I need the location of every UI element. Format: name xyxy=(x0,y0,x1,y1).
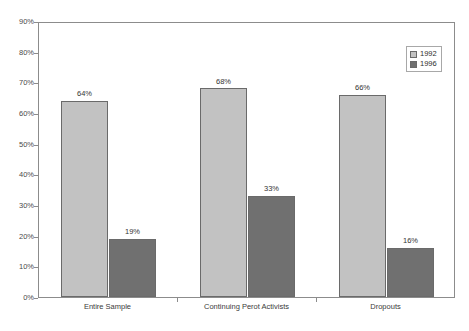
legend-swatch-icon xyxy=(410,61,417,68)
y-axis-tick-label: 90% xyxy=(0,18,34,26)
legend-label: 1992 xyxy=(420,50,437,58)
legend-item-1996[interactable]: 1996 xyxy=(410,59,437,69)
x-axis-category-label: Continuing Perot Activists xyxy=(177,303,316,311)
y-axis-tick-label: 60% xyxy=(0,110,34,118)
chart-legend: 19921996 xyxy=(406,46,442,72)
y-axis-tick-label: 80% xyxy=(0,49,34,57)
y-axis-tick-label: 0% xyxy=(0,294,34,302)
x-axis-category-label: Dropouts xyxy=(316,303,455,311)
plot-area: 64%19%68%33%66%16% xyxy=(38,22,455,298)
bar-1996-3 xyxy=(387,248,434,297)
bar-group: 66%16% xyxy=(39,23,454,297)
y-axis-tick-label: 30% xyxy=(0,202,34,210)
y-axis-tick-label: 70% xyxy=(0,80,34,88)
bar-1992-3 xyxy=(339,95,386,297)
legend-swatch-icon xyxy=(410,51,417,58)
legend-label: 1996 xyxy=(420,60,437,68)
bar-value-label: 16% xyxy=(387,237,434,245)
bar-value-label: 66% xyxy=(339,84,386,92)
y-axis-tick-label: 10% xyxy=(0,264,34,272)
x-axis-tick-mark xyxy=(316,298,317,302)
y-axis-tick-mark xyxy=(34,298,38,299)
x-axis-tick-mark xyxy=(177,298,178,302)
x-axis-category-label: Entire Sample xyxy=(38,303,177,311)
y-axis-tick-label: 40% xyxy=(0,172,34,180)
legend-item-1992[interactable]: 1992 xyxy=(410,49,437,59)
y-axis-tick-label: 50% xyxy=(0,141,34,149)
bar-chart: 0%10%20%30%40%50%60%70%80%90% 64%19%68%3… xyxy=(0,0,469,331)
y-axis-tick-label: 20% xyxy=(0,233,34,241)
